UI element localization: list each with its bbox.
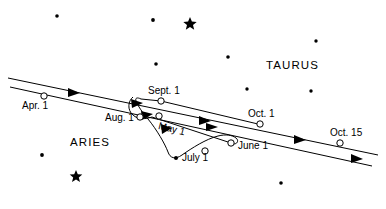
star-chart: ARIES TAURUS Apr. 1 Sept. 1 Aug. 1 May 1… [0, 0, 386, 209]
marker-july-1-dot [174, 156, 178, 160]
star-glyph-icon [70, 170, 83, 182]
date-label-aug-1: Aug. 1 [105, 112, 134, 123]
constellation-label-aries: ARIES [70, 136, 110, 148]
arrow-icon [68, 88, 80, 97]
date-label-apr-1: Apr. 1 [22, 100, 48, 111]
date-label-oct-1: Oct. 1 [248, 108, 275, 119]
sky-canvas [0, 0, 386, 209]
date-label-june-1: June 1 [238, 140, 268, 151]
star-glyph-icon [183, 17, 196, 30]
ecliptic-upper-line [8, 78, 378, 155]
constellation-label-taurus: TAURUS [266, 59, 319, 71]
arrow-icon [131, 99, 143, 108]
marker-oct-1 [257, 121, 263, 127]
star-dot [279, 181, 283, 185]
date-label-july-1: July 1 [182, 152, 208, 163]
marker-oct-15 [337, 140, 343, 146]
date-label-oct-15: Oct. 15 [330, 127, 362, 138]
marker-sept-1 [158, 98, 164, 104]
arrow-icon [206, 123, 218, 131]
star-dot [151, 18, 155, 22]
marker-june-1 [228, 140, 234, 146]
arrow-icon [351, 154, 363, 163]
star-dot [314, 39, 317, 42]
marker-apr-1 [41, 93, 47, 99]
date-label-sept-1: Sept. 1 [148, 85, 180, 96]
star-dot [245, 87, 248, 90]
star-dot [226, 55, 230, 59]
marker-may-1 [156, 113, 162, 119]
marker-aug-1 [137, 114, 143, 120]
star-dot [309, 89, 312, 92]
star-dot [40, 153, 44, 157]
arrow-icon [199, 116, 211, 125]
star-dot [154, 62, 158, 66]
arrow-icon [294, 135, 306, 144]
star-dot [55, 14, 59, 18]
star-field [40, 14, 318, 185]
